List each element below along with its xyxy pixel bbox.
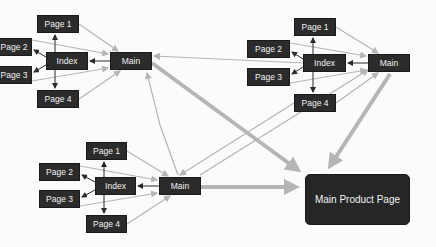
node-b-page1[interactable]: Page 1 xyxy=(86,142,127,160)
site-structure-diagram: Page 1 Page 2 Index Main Page 3 Page 4 P… xyxy=(0,0,436,247)
node-b-page3[interactable]: Page 3 xyxy=(39,190,80,208)
node-tr-main[interactable]: Main xyxy=(368,54,410,72)
node-b-page2[interactable]: Page 2 xyxy=(39,163,80,181)
node-tl-index[interactable]: Index xyxy=(46,52,88,70)
node-tl-page1[interactable]: Page 1 xyxy=(37,15,79,33)
node-b-page4[interactable]: Page 4 xyxy=(86,215,127,233)
node-b-index[interactable]: Index xyxy=(95,177,136,195)
node-tl-page2[interactable]: Page 2 xyxy=(0,38,32,56)
cross-cluster-edges xyxy=(91,56,368,175)
node-tr-page3[interactable]: Page 3 xyxy=(247,68,290,86)
node-tr-page2[interactable]: Page 2 xyxy=(247,40,290,58)
node-tl-page3[interactable]: Page 3 xyxy=(0,66,32,84)
node-tr-index[interactable]: Index xyxy=(303,54,346,72)
node-tr-page1[interactable]: Page 1 xyxy=(294,18,336,36)
node-b-main[interactable]: Main xyxy=(159,177,201,195)
node-tl-main[interactable]: Main xyxy=(110,52,152,70)
node-main-product-page[interactable]: Main Product Page xyxy=(305,174,410,225)
node-tl-page4[interactable]: Page 4 xyxy=(37,90,79,108)
node-tr-page4[interactable]: Page 4 xyxy=(294,94,336,112)
